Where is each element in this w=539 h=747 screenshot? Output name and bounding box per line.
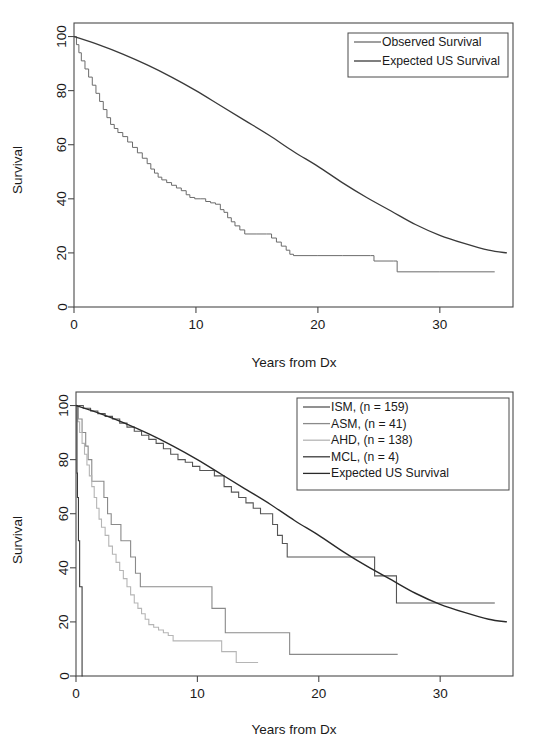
y-axis-title: Survival bbox=[10, 516, 25, 564]
y-tick-label: 40 bbox=[57, 560, 72, 575]
y-tick-label: 0 bbox=[55, 303, 70, 311]
x-tick-label: 0 bbox=[72, 686, 80, 701]
x-tick-label: 30 bbox=[433, 686, 448, 701]
legend-label-2: ASM, (n = 41) bbox=[331, 417, 407, 431]
legend-label-1: ISM, (n = 159) bbox=[331, 400, 409, 414]
survival-figure: 0102030020406080100 Observed SurvivalExp… bbox=[0, 0, 539, 747]
y-tick-label: 60 bbox=[57, 506, 72, 521]
y-tick-label: 20 bbox=[57, 614, 72, 629]
y-tick-label: 60 bbox=[55, 137, 70, 152]
legend-label-2: Expected US Survival bbox=[382, 54, 500, 68]
y-tick-label: 40 bbox=[55, 191, 70, 206]
y-tick-label: 0 bbox=[57, 672, 72, 680]
legend-label-4: MCL, (n = 4) bbox=[331, 450, 399, 464]
chart-svg-top: 0102030020406080100 Observed SurvivalExp… bbox=[0, 0, 539, 380]
series-line-ahd-n-138 bbox=[76, 406, 258, 663]
x-tick-label: 20 bbox=[311, 686, 326, 701]
x-tick-label: 0 bbox=[70, 317, 78, 332]
chart-panel-bottom: 0102030020406080100 ISM, (n = 159)ASM, (… bbox=[0, 380, 539, 747]
x-tick-label: 30 bbox=[432, 317, 447, 332]
y-tick-label: 100 bbox=[55, 25, 70, 48]
y-tick-label: 100 bbox=[57, 394, 72, 417]
x-tick-label: 10 bbox=[188, 317, 203, 332]
legend-label-3: AHD, (n = 138) bbox=[331, 433, 413, 447]
x-axis-title: Years from Dx bbox=[251, 355, 336, 370]
series-line-mcl-n-4 bbox=[76, 406, 83, 676]
chart-panel-top: 0102030020406080100 Observed SurvivalExp… bbox=[0, 0, 539, 380]
x-axis-title: Years from Dx bbox=[251, 722, 336, 737]
y-axis-title: Survival bbox=[10, 146, 25, 194]
x-tick-label: 10 bbox=[190, 686, 205, 701]
y-tick-label: 80 bbox=[57, 452, 72, 467]
x-tick-label: 20 bbox=[310, 317, 325, 332]
y-tick-label: 80 bbox=[55, 83, 70, 98]
y-tick-label: 20 bbox=[55, 245, 70, 260]
legend-label-1: Observed Survival bbox=[382, 35, 482, 49]
legend-label-5: Expected US Survival bbox=[331, 466, 449, 480]
chart-svg-bottom: 0102030020406080100 ISM, (n = 159)ASM, (… bbox=[0, 380, 539, 747]
